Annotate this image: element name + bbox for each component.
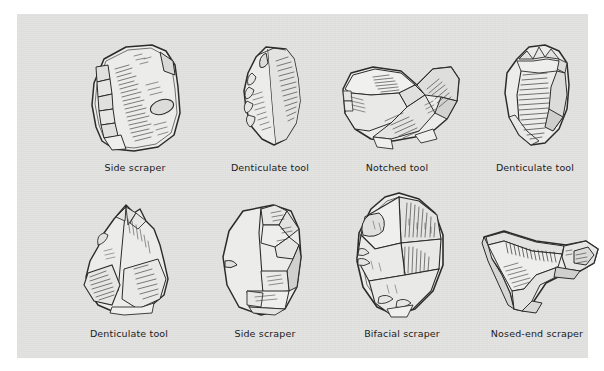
figure-caption-2: Notched tool xyxy=(366,163,429,173)
figure-item-3: Denticulate tool xyxy=(465,30,604,172)
figure-caption-3: Denticulate tool xyxy=(496,163,574,173)
stone-tool-denticulate-icon xyxy=(487,39,583,157)
figure-caption-1: Denticulate tool xyxy=(231,163,309,173)
stone-tool-notched-icon xyxy=(329,45,465,157)
figure-caption-7: Nosed-end scraper xyxy=(491,329,583,339)
stone-tool-denticulate-icon xyxy=(222,39,318,157)
figure-item-0: Side scraper xyxy=(55,30,215,172)
figure-item-2: Notched tool xyxy=(317,30,477,172)
figure-caption-6: Bifacial scraper xyxy=(364,329,440,339)
figure-plate-panel: Side scraper xyxy=(17,14,588,358)
figure-caption-0: Side scraper xyxy=(104,163,165,173)
figure-caption-4: Denticulate tool xyxy=(90,329,168,339)
figure-item-6: Bifacial scraper xyxy=(327,186,477,338)
stone-tool-bifacial-scraper-icon xyxy=(345,189,459,323)
figure-item-7: Nosed-end scraper xyxy=(457,186,604,338)
stone-tool-side-scraper-icon xyxy=(213,199,317,323)
stone-tool-denticulate-icon xyxy=(68,199,190,323)
figure-page: Side scraper xyxy=(0,0,604,371)
stone-tool-side-scraper-icon xyxy=(74,39,196,157)
figure-caption-5: Side scraper xyxy=(234,329,295,339)
figure-grid: Side scraper xyxy=(17,14,588,358)
figure-item-4: Denticulate tool xyxy=(49,186,209,338)
figure-item-5: Side scraper xyxy=(195,186,335,338)
stone-tool-nosed-end-scraper-icon xyxy=(470,219,604,323)
